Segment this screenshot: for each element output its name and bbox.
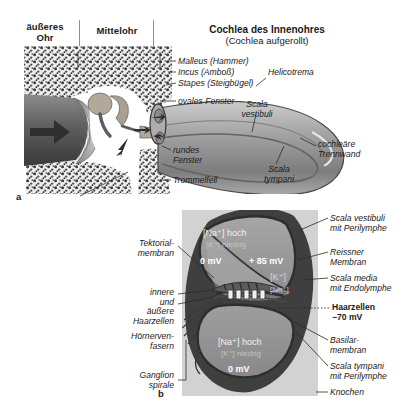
panel-b-letter: b: [158, 388, 164, 399]
ear-anatomy-figure: äußeres Ohr Mittelohr Cochlea des Inneno…: [0, 0, 414, 417]
panel-b-leaders: [0, 200, 414, 417]
panel-a-leaders: [0, 0, 414, 210]
